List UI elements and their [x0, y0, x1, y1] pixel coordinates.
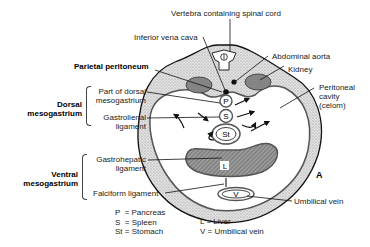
- svg-text:V: V: [233, 190, 239, 199]
- label-falciform-ligament: Falciform ligament: [93, 189, 158, 198]
- label-gastrohepatic-line1: Gastrohepatic: [84, 155, 146, 164]
- label-peritoneal-cavity-line3: (celom): [319, 101, 355, 110]
- svg-text:S: S: [223, 112, 228, 121]
- label-peritoneal-cavity-line2: cavity: [319, 92, 355, 101]
- label-vertebra: Vertebra containing spinal cord: [171, 9, 281, 18]
- legend-left: P = Pancreas S = Spleen St = Stomach: [115, 208, 165, 237]
- label-dorsal-line2: mesogastrium: [20, 109, 82, 118]
- pancreas: P: [220, 95, 232, 107]
- brace-dorsal: [86, 86, 91, 126]
- label-peritoneal-cavity: Peritoneal cavity (celom): [319, 83, 355, 110]
- label-umbilical-vein: Umbilical vein: [294, 197, 343, 206]
- legend-item-liver: L = Liver: [200, 217, 264, 227]
- svg-text:P: P: [223, 97, 228, 106]
- label-part-dorsal-line2: mesogastrium: [92, 96, 146, 105]
- label-ventral-mesogastrium: Ventral mesogastrium: [14, 170, 78, 188]
- label-ventral-line2: mesogastrium: [14, 179, 78, 188]
- spleen: S: [220, 110, 233, 123]
- brace-ventral: [82, 154, 87, 200]
- stomach: St: [212, 124, 240, 144]
- label-gastrohepatic-line2: ligament: [84, 164, 146, 173]
- label-part-dorsal-mesogastrium: Part of dorsal mesogastrium: [92, 87, 146, 105]
- legend-item-pancreas: P = Pancreas: [115, 208, 165, 218]
- abdominal-aorta: [231, 79, 236, 84]
- legend-item-stomach: St = Stomach: [115, 227, 165, 237]
- legend-item-umbilical-vein: V = Umbilical vein: [200, 227, 264, 237]
- legend-right: L = Liver V = Umbilical vein: [200, 217, 264, 236]
- label-peritoneal-cavity-line1: Peritoneal: [319, 83, 355, 92]
- label-ventral-line1: Ventral: [14, 170, 78, 179]
- figure-label: A: [316, 171, 323, 180]
- legend-item-spleen: S = Spleen: [115, 218, 165, 228]
- label-parietal-peritoneum: Parietal peritoneum: [74, 62, 149, 71]
- kidney-left: [186, 77, 212, 93]
- label-dorsal-line1: Dorsal: [20, 100, 82, 109]
- svg-text:St: St: [222, 130, 230, 139]
- label-part-dorsal-line1: Part of dorsal: [92, 87, 146, 96]
- kidney-right: [245, 74, 271, 90]
- label-gastrolienal-line1: Gastrolienal: [92, 113, 146, 122]
- svg-text:L: L: [223, 162, 228, 171]
- label-kidney: Kidney: [288, 65, 312, 74]
- label-gastrohepatic-ligament: Gastrohepatic ligament: [84, 155, 146, 173]
- label-dorsal-mesogastrium: Dorsal mesogastrium: [20, 100, 82, 118]
- label-gastrolienal-ligament: Gastrolienal ligament: [92, 113, 146, 131]
- inferior-vena-cava: [223, 89, 229, 95]
- label-abdominal-aorta: Abdominal aorta: [272, 52, 330, 61]
- label-gastrolienal-line2: ligament: [92, 122, 146, 131]
- label-inferior-vena-cava: Inferior vena cava: [134, 33, 198, 42]
- umbilical-vein: V: [218, 188, 254, 201]
